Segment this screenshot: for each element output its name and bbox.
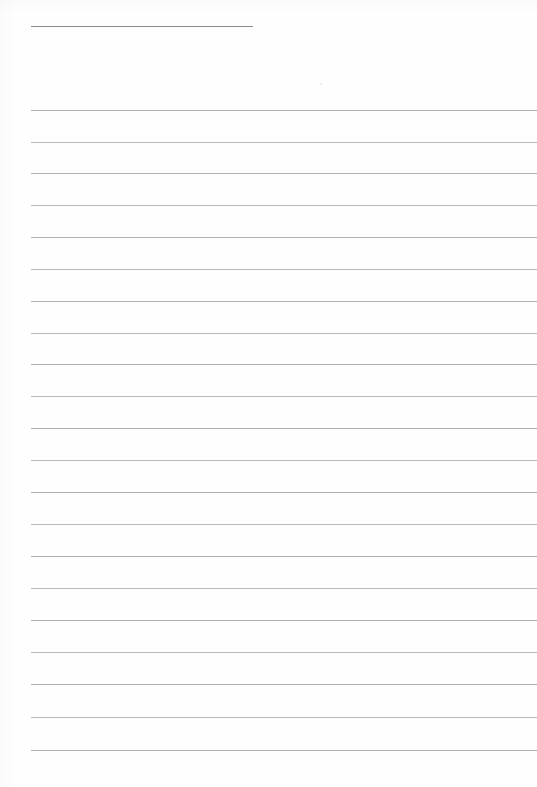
ruled-line (31, 524, 537, 525)
ruled-line (31, 684, 537, 685)
title-rule (31, 26, 253, 27)
ruled-line (31, 620, 537, 621)
ruled-line (31, 173, 537, 174)
ruled-line (31, 142, 537, 143)
ruled-line (31, 652, 537, 653)
ruled-line (31, 205, 537, 206)
ruled-line (31, 396, 537, 397)
ruled-line (31, 364, 537, 365)
ruled-line (31, 492, 537, 493)
paper-background (0, 0, 537, 787)
ruled-line (31, 717, 537, 718)
ruled-line (31, 237, 537, 238)
ruled-line (31, 333, 537, 334)
ruled-paper-page (0, 0, 537, 787)
scan-speck (320, 83, 322, 85)
ruled-line (31, 269, 537, 270)
ruled-line (31, 556, 537, 557)
ruled-line (31, 460, 537, 461)
ruled-line (31, 588, 537, 589)
ruled-line (31, 301, 537, 302)
ruled-line (31, 428, 537, 429)
ruled-line (31, 750, 537, 751)
ruled-line (31, 110, 537, 111)
